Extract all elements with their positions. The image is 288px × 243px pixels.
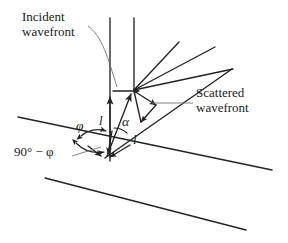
scattered-wavefront-label: Scattered wavefront <box>196 86 249 115</box>
phi-angle-label: φ <box>76 118 83 133</box>
scattered-wavefront-line1: Scattered <box>196 86 249 101</box>
scattered-ray-1 <box>134 42 179 90</box>
crystal-plane-lower <box>45 178 246 230</box>
complement-label-leader <box>72 147 101 156</box>
crystal-plane-upper <box>18 117 272 170</box>
path-length-upper-label: l <box>99 114 103 129</box>
alpha-angle-label: α <box>122 114 129 129</box>
complement-angle-label: 90° − φ <box>14 145 54 160</box>
incident-wavefront-line1: Incident <box>22 10 75 25</box>
incident-label-leader <box>88 26 117 87</box>
incident-wavefront-label: Incident wavefront <box>22 10 75 39</box>
scattered-wavefront-line2: wavefront <box>196 101 249 116</box>
incident-wavefront-line2: wavefront <box>22 25 75 40</box>
diffraction-diagram: Incident wavefront Scattered wavefront φ… <box>0 0 288 243</box>
scattered-wavefront-back-to-vertex <box>134 91 141 122</box>
scattered-wavefront-return <box>141 105 156 122</box>
path-length-lower-label: l <box>133 133 137 148</box>
scattered-ray-2 <box>134 47 215 90</box>
